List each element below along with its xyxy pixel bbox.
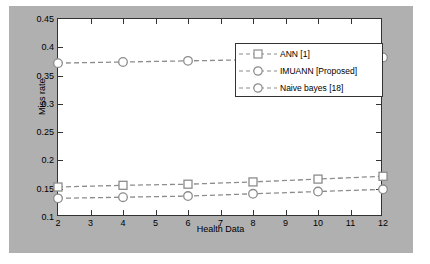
data-point-marker	[184, 57, 193, 66]
legend-label: ANN [1]	[280, 49, 310, 59]
y-tick-label: 0.4	[41, 42, 54, 52]
data-point-marker	[119, 181, 127, 189]
data-point-marker	[249, 190, 258, 199]
data-point-marker	[184, 192, 193, 201]
y-tick-label: 0.25	[36, 127, 54, 137]
data-point-marker	[314, 187, 323, 196]
series-line	[58, 189, 383, 198]
series-0	[54, 172, 387, 191]
data-point-marker	[379, 185, 388, 194]
legend-entry-imuann: IMUANN [Proposed]	[236, 62, 382, 80]
legend-label: Naive bayes [18]	[280, 83, 343, 93]
data-point-marker	[249, 178, 257, 186]
legend-entry-ann: ANN [1]	[236, 45, 382, 63]
data-point-marker	[54, 183, 62, 191]
chart-figure: Miss rate 0.1 0.15 0.2 0.25 0.3 0.35 0.4…	[0, 0, 430, 264]
chart-legend: ANN [1] IMUANN [Proposed]	[235, 43, 383, 97]
legend-swatch-circle-icon	[236, 64, 280, 78]
x-axis-label: Health Data	[58, 224, 383, 234]
y-tick-label: 0.1	[41, 212, 54, 222]
data-point-marker	[54, 59, 63, 68]
data-point-marker	[54, 194, 63, 203]
data-point-marker	[184, 180, 192, 188]
y-axis-label: Miss rate	[37, 78, 47, 115]
series-1	[54, 185, 388, 203]
y-tick-label: 0.35	[36, 71, 54, 81]
plot-area: Miss rate 0.1 0.15 0.2 0.25 0.3 0.35 0.4…	[57, 18, 382, 216]
data-point-marker	[379, 172, 387, 180]
y-tick-label: 0.2	[41, 155, 54, 165]
data-point-marker	[119, 58, 128, 67]
y-tick-label: 0.45	[36, 14, 54, 24]
y-tick-label: 0.15	[36, 184, 54, 194]
legend-entry-naive-bayes: Naive bayes [18]	[236, 79, 382, 97]
y-tick-label: 0.3	[41, 99, 54, 109]
legend-swatch-circle-icon	[236, 81, 280, 95]
data-point-marker	[314, 175, 322, 183]
series-line	[58, 176, 383, 187]
legend-label: IMUANN [Proposed]	[280, 66, 357, 76]
legend-swatch-square-icon	[236, 47, 280, 61]
data-point-marker	[119, 193, 128, 202]
